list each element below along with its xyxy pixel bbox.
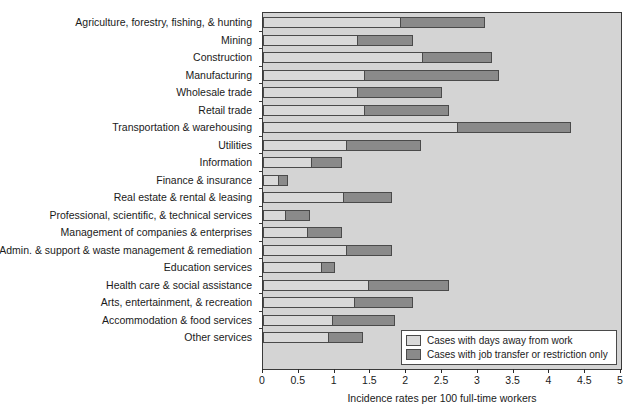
x-axis-tick-label: 1 [331, 374, 337, 386]
y-axis-tick [259, 188, 263, 189]
bar-segment-days-away [264, 36, 357, 45]
bar-stack [263, 192, 392, 203]
bar-stack [263, 227, 342, 238]
category-label: Retail trade [198, 102, 252, 120]
x-axis-tick [334, 369, 335, 373]
y-axis-tick [259, 66, 263, 67]
bar-segment-days-away [264, 246, 346, 255]
bar-segment-job-transfer [278, 176, 287, 185]
legend-swatch-dark-icon [406, 349, 421, 360]
x-axis-tick [477, 369, 478, 373]
bar-segment-days-away [264, 158, 311, 167]
x-axis-tick [441, 369, 442, 373]
x-axis-tick-label: 4.5 [577, 374, 592, 386]
bar-stack [263, 332, 363, 343]
bar-segment-job-transfer [346, 141, 419, 150]
x-axis-title: Incidence rates per 100 full-time worker… [262, 392, 622, 404]
bar-stack [263, 175, 288, 186]
bar-segment-days-away [264, 18, 400, 27]
bar-segment-days-away [264, 53, 422, 62]
bar-segment-job-transfer [364, 71, 498, 80]
bar-segment-job-transfer [457, 123, 570, 132]
category-label: Transportation & warehousing [112, 119, 252, 137]
x-axis-tick-label: 2 [402, 374, 408, 386]
legend-item-job-transfer: Cases with job transfer or restriction o… [406, 347, 612, 361]
bar-segment-days-away [264, 281, 368, 290]
legend-label: Cases with job transfer or restriction o… [427, 349, 608, 360]
bar-segment-days-away [264, 106, 364, 115]
bar-segment-job-transfer [328, 333, 362, 342]
x-axis-tick [620, 369, 621, 373]
legend-item-days-away: Cases with days away from work [406, 333, 612, 347]
x-axis-tick [513, 369, 514, 373]
bar-segment-days-away [264, 333, 328, 342]
bar-segment-days-away [264, 71, 364, 80]
y-axis-tick [259, 118, 263, 119]
x-axis-tick [369, 369, 370, 373]
bar-stack [263, 157, 342, 168]
bar-segment-job-transfer [357, 36, 412, 45]
y-axis-tick [259, 241, 263, 242]
bar-stack [263, 122, 571, 133]
category-label: Other services [184, 329, 252, 347]
plot-area [262, 12, 622, 370]
bar-stack [263, 297, 413, 308]
x-axis-tick-label: 3.5 [505, 374, 520, 386]
bar-segment-job-transfer [285, 211, 308, 220]
bar-segment-days-away [264, 193, 343, 202]
category-label: Accommodation & food services [102, 312, 252, 330]
bar-segment-job-transfer [354, 298, 413, 307]
y-axis-tick [259, 83, 263, 84]
y-axis-tick [259, 258, 263, 259]
x-axis-tick-label: 3 [474, 374, 480, 386]
y-axis-tick [259, 328, 263, 329]
y-axis-tick [259, 48, 263, 49]
x-axis-tick [298, 369, 299, 373]
category-axis-labels: Agriculture, forestry, fishing, & huntin… [0, 14, 256, 364]
bar-stack [263, 17, 485, 28]
bar-segment-job-transfer [368, 281, 448, 290]
category-label: Wholesale trade [176, 84, 252, 102]
x-axis-tick [405, 369, 406, 373]
bar-stack [263, 35, 413, 46]
y-axis-tick [259, 293, 263, 294]
y-axis-tick [259, 171, 263, 172]
bar-segment-days-away [264, 88, 357, 97]
bar-segment-days-away [264, 211, 285, 220]
x-axis-tick-label: 0.5 [290, 374, 305, 386]
bar-segment-days-away [264, 141, 346, 150]
y-axis-tick [259, 101, 263, 102]
x-axis-tick-label: 5 [617, 374, 623, 386]
category-label: Real estate & rental & leasing [114, 189, 252, 207]
category-label: Utilities [218, 137, 252, 155]
bar-stack [263, 105, 449, 116]
bar-stack [263, 52, 492, 63]
category-label: Professional, scientific, & technical se… [50, 207, 253, 225]
bar-stack [263, 245, 392, 256]
y-axis-tick [259, 136, 263, 137]
category-label: Information [199, 154, 252, 172]
bar-segment-job-transfer [346, 246, 391, 255]
bar-segment-days-away [264, 176, 278, 185]
stacked-bar-chart: Agriculture, forestry, fishing, & huntin… [0, 0, 627, 414]
bar-stack [263, 262, 335, 273]
y-axis-tick [259, 223, 263, 224]
y-axis-tick [259, 31, 263, 32]
bar-segment-job-transfer [357, 88, 441, 97]
x-axis-tick-label: 1.5 [362, 374, 377, 386]
category-label: Agriculture, forestry, fishing, & huntin… [75, 14, 252, 32]
bar-segment-days-away [264, 316, 332, 325]
category-label: Education services [164, 259, 252, 277]
category-label: Admin. & support & waste management & re… [0, 242, 252, 260]
category-label: Health care & social assistance [106, 277, 252, 295]
category-label: Finance & insurance [156, 172, 252, 190]
bar-stack [263, 140, 421, 151]
bars-layer [263, 13, 621, 369]
category-label: Construction [193, 49, 252, 67]
category-label: Mining [221, 32, 252, 50]
bar-segment-job-transfer [332, 316, 394, 325]
chart-legend: Cases with days away from work Cases wit… [401, 330, 617, 365]
bar-segment-job-transfer [400, 18, 484, 27]
bar-stack [263, 280, 449, 291]
category-label: Manufacturing [185, 67, 252, 85]
